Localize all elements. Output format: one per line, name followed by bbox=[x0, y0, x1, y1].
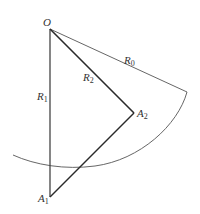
label-r1: R1 bbox=[36, 90, 48, 104]
segment-r2 bbox=[50, 29, 134, 113]
arc-r0 bbox=[13, 92, 187, 167]
label-a2: A2 bbox=[136, 107, 148, 121]
label-a1: A1 bbox=[37, 192, 49, 206]
segment-r0 bbox=[50, 29, 187, 92]
geometry-diagram: O R0 R1 R2 A2 A1 bbox=[0, 0, 200, 214]
label-o: O bbox=[43, 16, 51, 28]
segment-a1-a2 bbox=[50, 113, 134, 197]
label-r0: R0 bbox=[123, 54, 135, 68]
label-r2: R2 bbox=[82, 71, 94, 85]
